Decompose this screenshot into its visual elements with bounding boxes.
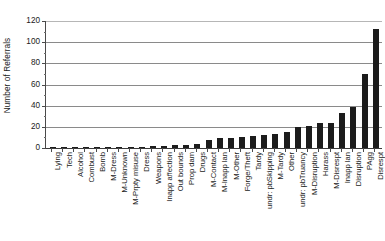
x-label-slot: Inapp lan [336,152,347,240]
bar [339,113,345,148]
bar [373,29,379,148]
y-tick-label: 40 [31,102,40,110]
bar-series [46,21,382,148]
y-tick-label: 120 [26,17,40,25]
bar [261,135,267,148]
y-tick-label: 60 [31,80,40,88]
bar-slot [359,21,370,148]
x-label-slot: Inapp affection [157,152,168,240]
x-label-slot: M-Disruption [302,152,313,240]
bar-slot [259,21,270,148]
bar-slot [158,21,169,148]
bar [272,134,278,148]
bar-slot [236,21,247,148]
bar-slot [170,21,181,148]
y-tick-label: 0 [35,144,40,152]
bar [306,126,312,148]
bar [239,137,245,148]
bar-slot [314,21,325,148]
x-tick-label: Disrespt [377,152,385,180]
x-label-slot: M-Other [224,152,235,240]
bar [228,138,234,148]
x-label-slot: Prop dam [180,152,191,240]
x-label-slot: Out bounds [169,152,180,240]
bar-slot [225,21,236,148]
x-label-slot: Drugs [191,152,202,240]
bar-slot [47,21,58,148]
x-label-slot: PAgg [358,152,369,240]
bar-slot [203,21,214,148]
x-label-slot: undr: pbSkipping [258,152,269,240]
bar-slot [337,21,348,148]
x-label-slot: Lying [46,152,57,240]
bar-slot [326,21,337,148]
y-tick-label: 20 [31,123,40,131]
x-label-slot: M-Dress [102,152,113,240]
bar-slot [147,21,158,148]
x-label-slot: Dress [135,152,146,240]
bar [284,132,290,148]
bar-slot [214,21,225,148]
bar-slot [348,21,359,148]
bar [317,123,323,148]
bar [206,140,212,148]
bar [350,107,356,148]
bar [362,74,368,148]
bar [328,123,334,148]
bar-slot [103,21,114,148]
x-label-slot: Other [280,152,291,240]
x-axis-tick-labels: LyingTechAlcoholCombustBombM-DressM-Unkn… [45,152,381,240]
bar-slot [370,21,381,148]
bar [295,127,301,148]
bar-slot [136,21,147,148]
x-label-slot: M-Prpty misuse [124,152,135,240]
x-label-slot: Alcohol [68,152,79,240]
x-label-slot: M-Contact [202,152,213,240]
x-label-slot: Bomb [91,152,102,240]
bar-slot [270,21,281,148]
bar-slot [181,21,192,148]
bar-slot [281,21,292,148]
x-label-slot: Disruption [347,152,358,240]
bar-slot [303,21,314,148]
y-tick-label: 100 [26,38,40,46]
plot-area [45,21,382,148]
bar-slot [92,21,103,148]
x-label-slot: undr: pbTruancy [291,152,302,240]
bar-slot [292,21,303,148]
bar-slot [192,21,203,148]
bar-slot [69,21,80,148]
bar-slot [125,21,136,148]
bar [217,138,223,148]
x-label-slot: M-Tardy [269,152,280,240]
bar-slot [80,21,91,148]
x-label-slot: M-Inapp lan [213,152,224,240]
x-label-slot: Tech [57,152,68,240]
x-label-slot: Harass [313,152,324,240]
bar-slot [58,21,69,148]
x-label-slot: Disrespt [369,152,380,240]
y-axis-tick-labels: 020406080100120 [14,14,42,154]
x-label-slot: M-Disrespt [325,152,336,240]
bar-chart: Number of Referrals 020406080100120 Lyin… [0,0,385,241]
x-label-slot: Weapons [146,152,157,240]
y-axis-title-text: Number of Referrals [4,37,13,113]
y-tick-label: 80 [31,59,40,67]
bar [250,136,256,148]
x-label-slot: Tardy [247,152,258,240]
bar-slot [114,21,125,148]
x-label-slot: Combust [79,152,90,240]
bar-slot [248,21,259,148]
x-label-slot: M-Unknown [113,152,124,240]
x-label-slot: Forge/Theft [235,152,246,240]
